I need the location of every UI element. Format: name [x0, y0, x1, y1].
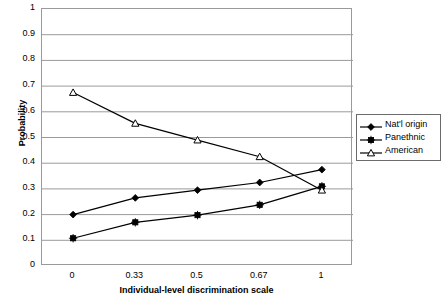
- legend-item-1[interactable]: Nat'l origin: [359, 118, 438, 131]
- legend-marker-filled-square-icon: [359, 132, 383, 144]
- legend-item-3[interactable]: American: [359, 144, 438, 157]
- x-tick-label: 0.33: [109, 270, 159, 280]
- data-point-marker: [131, 218, 139, 226]
- legend-item-2[interactable]: Panethnic: [359, 131, 438, 144]
- x-tick-label: 0.67: [234, 270, 284, 280]
- data-point-marker: [70, 89, 77, 95]
- data-point-marker: [256, 179, 263, 186]
- plot-canvas: [42, 9, 353, 266]
- data-point-marker: [69, 234, 77, 242]
- data-point-marker: [132, 194, 139, 201]
- y-tick-label: 0.7: [7, 80, 35, 89]
- x-axis-tick-labels: 00.330.50.671: [41, 270, 352, 282]
- legend-label: Nat'l origin: [383, 119, 427, 130]
- data-point-marker: [368, 123, 375, 130]
- data-point-marker: [194, 187, 201, 194]
- y-tick-label: 1: [7, 3, 35, 12]
- y-tick-label: 0.3: [7, 183, 35, 192]
- y-tick-label: 0.2: [7, 209, 35, 218]
- y-axis-tick-labels: 10.90.80.70.60.50.40.30.20.10: [7, 0, 35, 303]
- legend-marker-open-triangle-icon: [359, 145, 383, 157]
- legend-label: American: [383, 145, 423, 156]
- chart-legend: Nat'l originPanethnicAmerican: [356, 114, 441, 161]
- y-tick-label: 0.4: [7, 157, 35, 166]
- y-tick-label: 0.9: [7, 29, 35, 38]
- y-tick-label: 0.8: [7, 54, 35, 63]
- data-point-marker: [367, 135, 375, 143]
- data-point-marker: [70, 211, 77, 218]
- plot-area: [41, 8, 352, 265]
- data-point-marker: [132, 120, 139, 126]
- line-chart: Probability 10.90.80.70.60.50.40.30.20.1…: [0, 0, 443, 303]
- data-point-marker: [319, 166, 326, 173]
- x-tick-label: 1: [296, 270, 346, 280]
- legend-label: Panethnic: [383, 132, 425, 143]
- legend-marker-filled-diamond-icon: [359, 119, 383, 131]
- x-tick-label: 0: [47, 270, 97, 280]
- data-point-marker: [193, 211, 201, 219]
- data-point-marker: [256, 201, 264, 209]
- y-tick-label: 0.1: [7, 234, 35, 243]
- y-tick-label: 0.6: [7, 106, 35, 115]
- y-tick-label: 0: [7, 260, 35, 269]
- x-tick-label: 0.5: [172, 270, 222, 280]
- x-axis-title: Individual-level discrimination scale: [41, 285, 352, 295]
- series-1: [70, 166, 326, 218]
- series-3: [70, 89, 326, 193]
- y-tick-label: 0.5: [7, 132, 35, 141]
